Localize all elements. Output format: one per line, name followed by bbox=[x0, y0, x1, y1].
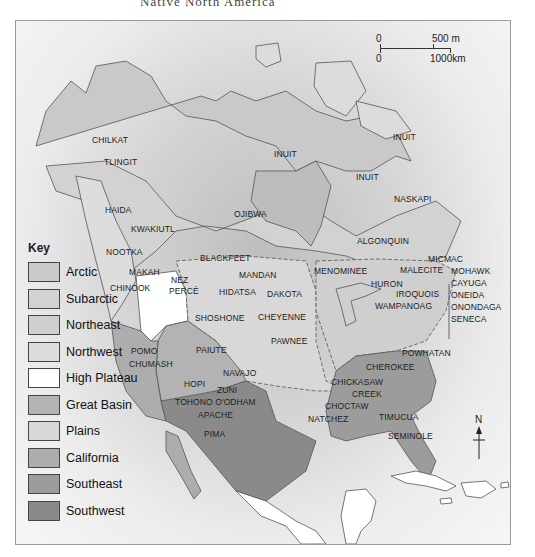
legend-swatch bbox=[28, 368, 60, 388]
tribe-label: TIMUCUA bbox=[379, 412, 418, 422]
legend-swatch bbox=[28, 448, 60, 468]
map-caption: Native North America bbox=[140, 0, 276, 10]
legend-item-subarctic: Subarctic bbox=[28, 286, 148, 313]
scale-tick bbox=[433, 44, 434, 48]
scale-top-zero: 0 bbox=[376, 33, 382, 44]
tribe-label: CHILKAT bbox=[92, 135, 128, 145]
north-arrow: N bbox=[471, 414, 491, 464]
tribe-label: ALGONQUIN bbox=[357, 236, 409, 246]
tribe-label: INUIT bbox=[274, 149, 297, 159]
tribe-label: PAWNEE bbox=[271, 336, 308, 346]
central-america bbox=[236, 491, 326, 544]
tribe-label: MALECITE bbox=[400, 265, 443, 275]
tribe-label: PERCÉ bbox=[169, 286, 199, 296]
legend-swatch bbox=[28, 501, 60, 521]
scale-bar: 0 500 m 0 1000km bbox=[376, 33, 496, 73]
tribe-label: INUIT bbox=[393, 132, 416, 142]
legend-item-northeast: Northeast bbox=[28, 312, 148, 339]
legend-item-plains: Plains bbox=[28, 418, 148, 445]
tribe-label: WAMPANOAG bbox=[375, 301, 432, 311]
tribe-label: PIMA bbox=[204, 429, 225, 439]
tribe-label: MOHAWK bbox=[451, 266, 490, 276]
scale-line bbox=[380, 48, 450, 49]
tribe-label: INUIT bbox=[356, 172, 379, 182]
tribe-label: OJIBWA bbox=[234, 209, 267, 219]
tribe-label: APACHE bbox=[198, 410, 233, 420]
tribe-label: PAIUTE bbox=[196, 345, 227, 355]
legend-swatch bbox=[28, 289, 60, 309]
legend-label: Arctic bbox=[66, 265, 97, 279]
tribe-label: HIDATSA bbox=[219, 287, 256, 297]
tribe-label: MICMAC bbox=[428, 254, 463, 264]
tribe-label: SENECA bbox=[451, 314, 487, 324]
map-legend: Key Arctic Subarctic Northeast Northwest… bbox=[28, 241, 148, 524]
legend-label: Great Basin bbox=[66, 398, 132, 412]
legend-item-southwest: Southwest bbox=[28, 498, 148, 525]
legend-item-southeast: Southeast bbox=[28, 471, 148, 498]
tribe-label: MENOMINEE bbox=[314, 266, 367, 276]
scale-bottom-value: 1000km bbox=[430, 53, 466, 64]
tribe-label: IROQUOIS bbox=[396, 289, 439, 299]
legend-label: Plains bbox=[66, 424, 100, 438]
tribe-label: HURON bbox=[371, 279, 403, 289]
scale-bottom-zero: 0 bbox=[376, 53, 382, 64]
tribe-label: CHOCTAW bbox=[325, 401, 369, 411]
hispaniola bbox=[461, 481, 496, 498]
legend-swatch bbox=[28, 474, 60, 494]
legend-item-california: California bbox=[28, 445, 148, 472]
tribe-label: TLINGIT bbox=[104, 157, 137, 167]
legend-item-arctic: Arctic bbox=[28, 259, 148, 286]
legend-item-great-basin: Great Basin bbox=[28, 392, 148, 419]
tribe-label: NASKAPI bbox=[394, 194, 432, 204]
tribe-label: MANDAN bbox=[239, 270, 276, 280]
tribe-label: NATCHEZ bbox=[308, 414, 348, 424]
tribe-label: NAVAJO bbox=[223, 368, 256, 378]
tribe-label: ZUNI bbox=[217, 385, 237, 395]
arctic-island bbox=[256, 43, 281, 67]
tribe-label: NEZ bbox=[171, 275, 188, 285]
map-frame: 0 500 m 0 1000km N INUIT INUIT INUIT CHI… bbox=[15, 20, 511, 545]
tribe-label: SEMINOLE bbox=[388, 431, 433, 441]
tribe-label: CHEYENNE bbox=[258, 312, 306, 322]
scale-top-value: 500 m bbox=[432, 33, 460, 44]
legend-swatch bbox=[28, 262, 60, 282]
tribe-label: KWAKIUTL bbox=[131, 224, 175, 234]
tribe-label: DAKOTA bbox=[267, 289, 302, 299]
legend-item-high-plateau: High Plateau bbox=[28, 365, 148, 392]
legend-title: Key bbox=[28, 241, 148, 255]
cuba bbox=[391, 471, 456, 491]
tribe-label: CREEK bbox=[352, 389, 382, 399]
tribe-label: TOHONO O'ODHAM bbox=[175, 397, 256, 407]
legend-label: Southeast bbox=[66, 477, 122, 491]
scale-tick bbox=[380, 44, 381, 53]
legend-swatch bbox=[28, 315, 60, 335]
tribe-label: POWHATAN bbox=[402, 348, 451, 358]
tribe-label: HAIDA bbox=[105, 205, 131, 215]
tribe-label: SHOSHONE bbox=[195, 313, 244, 323]
puerto-rico bbox=[501, 482, 509, 488]
legend-swatch bbox=[28, 395, 60, 415]
legend-swatch bbox=[28, 421, 60, 441]
legend-item-northwest: Northwest bbox=[28, 339, 148, 366]
tribe-label: BLACKFEET bbox=[200, 253, 251, 263]
north-arrow-icon bbox=[471, 414, 491, 464]
tribe-label: CHEROKEE bbox=[366, 362, 415, 372]
tribe-label: CHICKASAW bbox=[331, 377, 383, 387]
legend-label: High Plateau bbox=[66, 371, 138, 385]
jamaica bbox=[440, 498, 452, 504]
yucatan bbox=[341, 489, 376, 544]
legend-swatch bbox=[28, 342, 60, 362]
tribe-label: ONEIDA bbox=[451, 290, 484, 300]
tribe-label: HOPI bbox=[184, 379, 205, 389]
legend-label: Northwest bbox=[66, 345, 122, 359]
legend-label: Northeast bbox=[66, 318, 120, 332]
tribe-label: CAYUGA bbox=[451, 278, 487, 288]
tribe-label: ONONDAGA bbox=[451, 302, 501, 312]
legend-label: California bbox=[66, 451, 119, 465]
legend-label: Subarctic bbox=[66, 292, 118, 306]
legend-label: Southwest bbox=[66, 504, 124, 518]
